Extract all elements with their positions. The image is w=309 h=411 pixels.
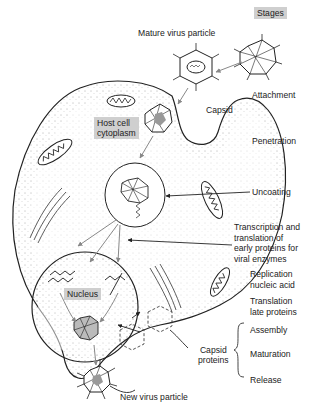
nucleus-label: Nucleus: [64, 288, 101, 300]
capsid-label: Capsid: [206, 105, 233, 115]
virus-particle-icosahedron-icon: [234, 34, 282, 80]
new-virus-particle-label: New virus particle: [120, 392, 188, 402]
uncoating-vesicle: [105, 163, 165, 227]
stage-release: Release: [250, 375, 282, 386]
stage-assembly: Assembly: [250, 325, 287, 336]
stage-replication: Replication nucleic acid: [250, 269, 295, 290]
stage-transcription: Transcription and translation of early p…: [234, 222, 300, 264]
stage-penetration: Penetration: [252, 136, 296, 147]
capsid-proteins-line2: proteins: [198, 355, 229, 365]
host-cell-cytoplasm-line2: cytoplasm: [97, 128, 136, 138]
mature-virus-particle-icon: [173, 43, 219, 91]
mitochondrion-icon: [107, 95, 135, 107]
stage-attachment: Attachment: [252, 90, 295, 101]
capsid-proteins-label: Capsid proteins: [198, 345, 229, 365]
stage-maturation: Maturation: [250, 349, 291, 360]
stages-title: Stages: [254, 7, 287, 19]
stage-uncoating: Uncoating: [252, 187, 291, 198]
host-cell-cytoplasm-line1: Host cell: [97, 118, 130, 128]
capsid-proteins-line1: Capsid: [200, 345, 227, 355]
host-cell-cytoplasm-label: Host cell cytoplasm: [94, 117, 139, 139]
stage-translation: Translation late proteins: [250, 296, 297, 317]
mature-virus-particle-label: Mature virus particle: [138, 28, 215, 38]
